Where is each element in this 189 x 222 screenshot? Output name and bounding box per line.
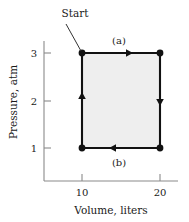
y-axis-title: Pressure, atm bbox=[7, 65, 19, 139]
vertex-marker-10-3 bbox=[79, 50, 86, 57]
x-tick-label-20: 20 bbox=[154, 187, 167, 198]
process-a-label: (a) bbox=[112, 35, 126, 46]
y-tick-label-3: 3 bbox=[31, 48, 37, 59]
x-tick-label-10: 10 bbox=[76, 187, 89, 198]
y-tick-label-1: 1 bbox=[31, 143, 37, 154]
vertex-marker-20-3 bbox=[157, 50, 164, 57]
process-b-label: (b) bbox=[112, 157, 126, 168]
x-axis-title: Volume, liters bbox=[73, 204, 147, 216]
pv-diagram-chart: 3 2 1 10 20 Volume, liters Pressure, atm… bbox=[0, 0, 189, 222]
pv-diagram-figure: 3 2 1 10 20 Volume, liters Pressure, atm… bbox=[0, 0, 189, 222]
vertex-marker-20-1 bbox=[157, 145, 164, 152]
vertex-marker-10-1 bbox=[79, 145, 86, 152]
y-tick-label-2: 2 bbox=[31, 96, 37, 107]
start-label: Start bbox=[62, 7, 90, 19]
cycle-interior-fill bbox=[82, 53, 160, 148]
start-leader-line bbox=[66, 24, 81, 51]
